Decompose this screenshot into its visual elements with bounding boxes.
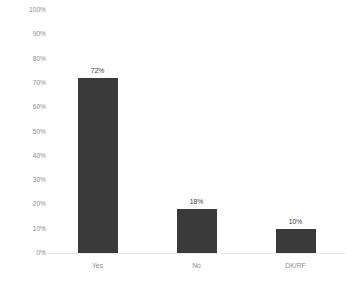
x-tick-label: DK/RF <box>285 263 305 270</box>
x-tick-label: Yes <box>92 263 103 270</box>
y-tick-label: 60% <box>0 104 46 111</box>
y-tick-label: 70% <box>0 80 46 87</box>
bar[interactable] <box>78 78 118 253</box>
y-tick-label: 0% <box>0 250 46 257</box>
bar[interactable] <box>276 229 316 253</box>
y-tick-label: 90% <box>0 31 46 38</box>
bar-value-label: 18% <box>190 199 204 206</box>
x-axis: YesNoDK/RF <box>48 258 345 278</box>
y-axis: 0%10%20%30%40%50%60%70%80%90%100% <box>0 0 46 285</box>
x-axis-baseline <box>48 253 345 254</box>
x-tick-label: No <box>192 263 201 270</box>
bar-chart: 0%10%20%30%40%50%60%70%80%90%100% 72%18%… <box>0 0 352 285</box>
y-tick-label: 80% <box>0 55 46 62</box>
y-tick-label: 40% <box>0 153 46 160</box>
plot-area: 72%18%10% <box>48 0 345 253</box>
bar-value-label: 72% <box>91 68 105 75</box>
bar-group: 10% <box>276 0 316 253</box>
y-tick-label: 10% <box>0 225 46 232</box>
y-tick-label: 100% <box>0 7 46 14</box>
bar[interactable] <box>177 209 217 253</box>
y-tick-label: 30% <box>0 177 46 184</box>
y-tick-label: 50% <box>0 128 46 135</box>
bar-value-label: 10% <box>289 219 303 226</box>
bar-group: 72% <box>78 0 118 253</box>
y-tick-label: 20% <box>0 201 46 208</box>
bar-group: 18% <box>177 0 217 253</box>
